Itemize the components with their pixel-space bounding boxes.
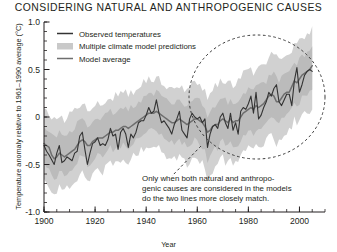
svg-text:1900: 1900 bbox=[34, 216, 53, 226]
annotation-text: Only when both natural and anthropo- gen… bbox=[142, 174, 292, 203]
svg-text:0: 0 bbox=[35, 112, 40, 122]
legend-label-model-spread: Multiple climate model predictions bbox=[79, 42, 196, 51]
svg-text:-0.5: -0.5 bbox=[25, 160, 40, 170]
svg-text:2000: 2000 bbox=[290, 216, 309, 226]
annotation-line-3: do the two lines more closely match. bbox=[142, 194, 269, 203]
svg-text:1960: 1960 bbox=[188, 216, 207, 226]
climate-anomaly-chart: -1.0-0.500.51.0190019201940196019802000 … bbox=[0, 0, 337, 252]
chart-legend: Observed temperatures Multiple climate m… bbox=[57, 30, 196, 64]
svg-text:1940: 1940 bbox=[137, 216, 156, 226]
svg-text:1.0: 1.0 bbox=[28, 17, 40, 27]
legend-swatch-model-spread bbox=[57, 43, 73, 50]
chart-page: CONSIDERING NATURAL AND ANTHROPOGENIC CA… bbox=[0, 0, 337, 252]
svg-text:1980: 1980 bbox=[239, 216, 258, 226]
svg-text:0.5: 0.5 bbox=[28, 65, 40, 75]
legend-label-model-average: Model average bbox=[79, 55, 131, 64]
annotation-line-2: genic causes are considered in the model… bbox=[142, 184, 292, 193]
legend-label-observed: Observed temperatures bbox=[79, 30, 161, 39]
annotation-line-1: Only when both natural and anthropo- bbox=[142, 174, 275, 183]
svg-text:1920: 1920 bbox=[86, 216, 105, 226]
